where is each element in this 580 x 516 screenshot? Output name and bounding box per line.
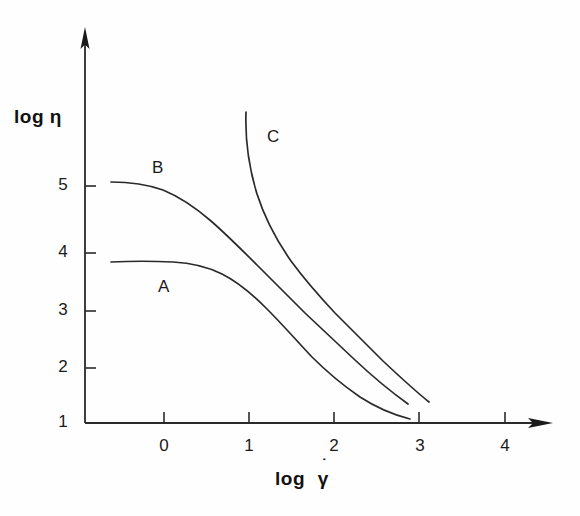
x-axis-title: log γ ˙ [275, 468, 329, 490]
y-tick-label-1: 1 [52, 412, 74, 432]
figure-canvas: log η log γ ˙ 5 4 3 2 1 0 1 2 3 4 A B C [0, 0, 580, 516]
curve-label-b: B [152, 158, 163, 178]
gamma-dot-accent: ˙ [322, 455, 328, 472]
curve-b [111, 182, 408, 404]
x-tick-label-2: 2 [323, 436, 345, 456]
x-axis-ticks [164, 412, 505, 423]
curve-label-c: C [267, 127, 279, 147]
y-tick-label-4: 4 [52, 242, 74, 262]
x-axis-title-prefix: log [275, 468, 305, 489]
curve-a [111, 261, 410, 419]
x-tick-label-1: 1 [238, 436, 260, 456]
x-tick-label-4: 4 [494, 436, 516, 456]
curve-label-a: A [158, 277, 169, 297]
y-tick-label-5: 5 [52, 175, 74, 195]
y-tick-label-3: 3 [52, 300, 74, 320]
chart-plot-area [0, 0, 580, 516]
y-axis-ticks [85, 186, 96, 368]
x-axis-title-symbol: γ ˙ [318, 468, 329, 489]
curve-c [246, 112, 429, 402]
x-tick-label-0: 0 [153, 436, 175, 456]
y-axis-title: log η [14, 106, 62, 128]
x-tick-label-3: 3 [409, 436, 431, 456]
y-tick-label-2: 2 [52, 357, 74, 377]
